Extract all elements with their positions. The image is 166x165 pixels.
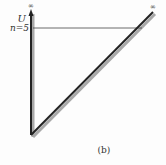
top-right-infinity-label: ∞ <box>150 3 156 11</box>
diagram-figure: ∞ ∞ U n=5 (b) <box>0 0 166 165</box>
axis-arrow-icon <box>29 9 34 16</box>
top-left-infinity-label: ∞ <box>28 2 34 10</box>
level-label-n5: n=5 <box>10 23 29 33</box>
diagonal-line <box>31 12 153 135</box>
diagram-canvas: ∞ ∞ U n=5 (b) <box>0 0 166 165</box>
diagonal-shadow <box>33 14 155 137</box>
figure-caption: (b) <box>98 145 111 155</box>
